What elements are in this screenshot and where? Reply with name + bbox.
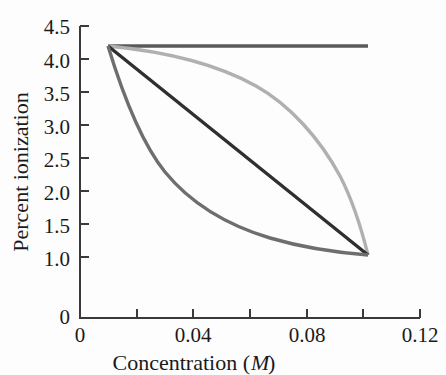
x-axis-title: Concentration ( M ) [113, 350, 276, 375]
y-tick-label-3.5: 3.5 [44, 82, 70, 106]
y-axis-title: Percent ionization [8, 92, 33, 251]
chart-figure: 4.5 4.0 3.5 3.0 2.5 2.0 1.5 1.0 0 [0, 0, 446, 375]
y-tick-label-1.0: 1.0 [44, 247, 70, 271]
y-tick-label-2.5: 2.5 [44, 148, 70, 172]
y-tick-label-3.0: 3.0 [44, 115, 70, 139]
axis-spines [80, 26, 420, 318]
y-tick-label-0: 0 [60, 305, 71, 329]
y-tick-label-4.0: 4.0 [44, 49, 70, 73]
x-tick-label-0.12: 0.12 [402, 323, 439, 347]
y-tick-label-2.0: 2.0 [44, 181, 70, 205]
x-axis-title-prefix: Concentration ( [113, 350, 250, 375]
x-axis-title-suffix: ) [268, 350, 275, 375]
y-tick-label-4.5: 4.5 [44, 15, 70, 39]
chart-plot-svg: 4.5 4.0 3.5 3.0 2.5 2.0 1.5 1.0 0 [0, 0, 446, 375]
x-tick-label-0.08: 0.08 [289, 323, 326, 347]
y-tick-label-1.5: 1.5 [44, 214, 70, 238]
y-axis-tick-marks [80, 26, 89, 257]
x-tick-label-0.04: 0.04 [175, 323, 212, 347]
x-axis-tick-marks [80, 309, 420, 318]
x-axis-tick-labels: 0 0.04 0.08 0.12 [75, 323, 439, 347]
y-axis-tick-labels: 4.5 4.0 3.5 3.0 2.5 2.0 1.5 1.0 0 [44, 15, 70, 329]
x-tick-label-0: 0 [75, 323, 86, 347]
